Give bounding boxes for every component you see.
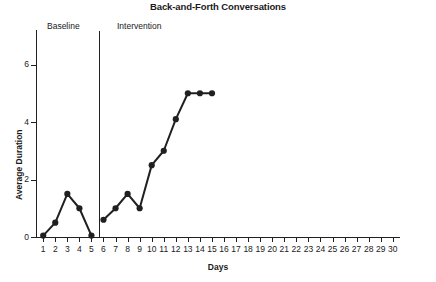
- chart-figure: Back-and-Forth Conversations Baseline In…: [0, 0, 436, 282]
- data-point-day-5: [88, 232, 94, 238]
- data-point-day-7: [112, 205, 118, 211]
- series-line-intervention: [104, 93, 212, 220]
- data-point-day-11: [161, 148, 167, 154]
- series-line-baseline: [43, 194, 91, 236]
- data-point-day-10: [149, 162, 155, 168]
- data-point-day-13: [185, 90, 191, 96]
- data-point-day-3: [64, 191, 70, 197]
- data-point-day-1: [40, 232, 46, 238]
- data-series-layer: [0, 0, 436, 282]
- data-point-day-12: [173, 116, 179, 122]
- data-point-day-4: [76, 205, 82, 211]
- data-point-day-2: [52, 220, 58, 226]
- data-point-day-15: [209, 90, 215, 96]
- data-point-day-6: [100, 217, 106, 223]
- data-point-day-9: [137, 205, 143, 211]
- x-axis-title: Days: [36, 262, 400, 272]
- data-point-day-14: [197, 90, 203, 96]
- data-point-day-8: [125, 191, 131, 197]
